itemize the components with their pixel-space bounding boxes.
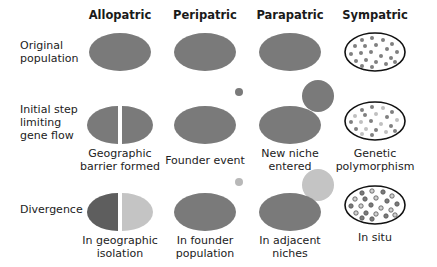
diverged-populations-allopatric <box>87 193 153 231</box>
population-ellipse-parapatric-original <box>259 33 321 71</box>
population-ellipse-peripatric-original <box>174 33 236 71</box>
caption-line: Genetic <box>325 147 425 160</box>
polymorphic-population-sympatric-initial <box>345 102 405 140</box>
polymorphic-population-sympatric-original <box>345 33 405 71</box>
caption-line: In situ <box>325 231 425 244</box>
caption-line: polymorphism <box>325 160 425 173</box>
population-ellipse-parapatric-initial <box>259 106 321 144</box>
diverged-founder-population-peripatric <box>235 178 243 186</box>
new-niche-population-parapatric-initial <box>302 80 334 112</box>
population-ellipse-peripatric-initial <box>174 106 236 144</box>
founder-population-peripatric-initial <box>235 88 243 96</box>
speciation-diagram <box>0 0 437 267</box>
population-ellipse-parapatric-divergence <box>259 193 321 231</box>
diverged-population-sympatric <box>345 186 405 224</box>
population-ellipse-allopatric-original <box>89 33 151 71</box>
split-population-allopatric-initial <box>87 106 153 144</box>
caption-in-situ: In situ <box>325 231 425 244</box>
population-ellipse-peripatric-divergence <box>174 193 236 231</box>
caption-line: niches <box>240 247 340 260</box>
caption-genetic-polymorphism: Genetic polymorphism <box>325 147 425 173</box>
